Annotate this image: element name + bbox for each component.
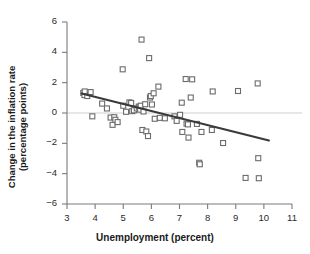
data-point-marker (197, 162, 202, 167)
data-point-marker (236, 89, 241, 94)
y-axis-tick-label: −4 (33, 167, 57, 178)
x-axis-tick-label: 10 (252, 212, 276, 223)
data-point-marker (151, 91, 156, 96)
data-point-marker (256, 176, 261, 181)
data-point-marker (124, 109, 129, 114)
y-axis-tick-label: −6 (33, 197, 57, 208)
data-point-marker (157, 115, 162, 120)
data-point-marker (209, 127, 214, 132)
data-point-marker (178, 112, 183, 117)
y-axis-tick-label: 4 (33, 45, 57, 56)
data-point-marker (156, 84, 161, 89)
data-point-marker (146, 134, 151, 139)
data-point-marker (139, 37, 144, 42)
data-point-marker (147, 56, 152, 61)
data-point-marker (221, 141, 226, 146)
data-point-marker (188, 95, 193, 100)
x-axis-tick-label: 7 (168, 212, 192, 223)
x-axis-tick-label: 6 (139, 212, 163, 223)
x-axis-tick-label: 8 (196, 212, 220, 223)
data-point-marker (110, 122, 115, 127)
data-point-marker (243, 175, 248, 180)
data-point-marker (88, 90, 93, 95)
x-axis-tick-label: 5 (111, 212, 135, 223)
x-axis-tick-label: 11 (280, 212, 304, 223)
data-point-marker (185, 122, 190, 127)
data-point-marker (210, 89, 215, 94)
data-point-marker (162, 116, 167, 121)
y-axis-tick-label: 2 (33, 76, 57, 87)
data-point-marker (104, 106, 109, 111)
data-point-marker (183, 77, 188, 82)
data-point-marker (255, 81, 260, 86)
data-point-marker (179, 100, 184, 105)
data-point-marker (152, 116, 157, 121)
x-axis-tick-label: 3 (55, 212, 79, 223)
data-point-marker (186, 135, 191, 140)
data-point-marker (174, 118, 179, 123)
data-point-marker (100, 101, 105, 106)
scatter-plot-figure: Change in the inflation rate (percentage… (0, 0, 310, 254)
y-axis-tick-label: 6 (33, 15, 57, 26)
x-axis-tick-label: 4 (83, 212, 107, 223)
data-point-marker (180, 129, 185, 134)
data-point-marker (149, 102, 154, 107)
data-point-marker (199, 129, 204, 134)
data-point-marker (190, 77, 195, 82)
x-axis-tick-label: 9 (224, 212, 248, 223)
data-point-marker (256, 156, 261, 161)
data-point-marker (90, 114, 95, 119)
data-point-marker (143, 102, 148, 107)
y-axis-tick-label: 0 (33, 106, 57, 117)
y-axis-tick-label: −2 (33, 136, 57, 147)
data-point-marker (120, 67, 125, 72)
data-point-marker (115, 120, 120, 125)
